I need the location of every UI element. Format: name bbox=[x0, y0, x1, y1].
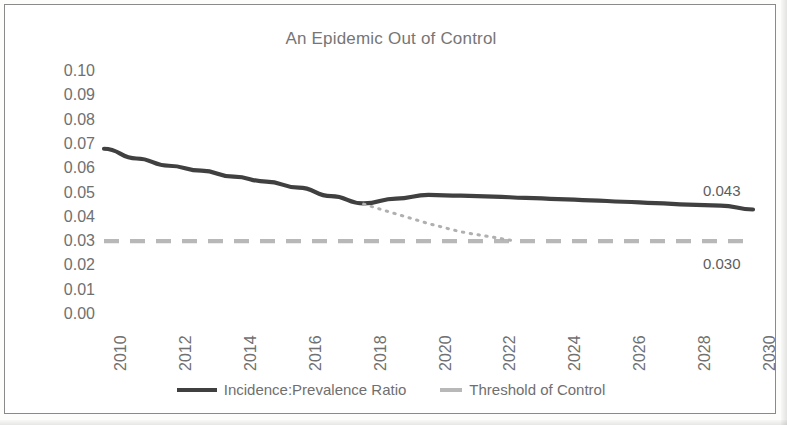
x-axis-tick-2028: 2028 bbox=[696, 335, 714, 371]
legend-label-threshold-of-control: Threshold of Control bbox=[469, 382, 605, 397]
page-edge-bottom bbox=[0, 420, 787, 425]
x-axis-tick-2026: 2026 bbox=[631, 335, 649, 371]
legend-item-threshold-of-control[interactable]: Threshold of Control bbox=[440, 382, 605, 397]
y-axis-tick-0-10: 0.10 bbox=[35, 62, 95, 80]
series-line-incidence-prevalence-ratio bbox=[104, 149, 753, 210]
chart-screenshot: An Epidemic Out of Control 0.100.090.080… bbox=[0, 0, 787, 425]
dashed-line-swatch-icon bbox=[440, 388, 462, 392]
y-axis-tick-0-00: 0.00 bbox=[35, 305, 95, 323]
x-axis-tick-2014: 2014 bbox=[242, 335, 260, 371]
y-axis-tick-0-09: 0.09 bbox=[35, 86, 95, 104]
y-axis-tick-0-03: 0.03 bbox=[35, 232, 95, 250]
x-axis-tick-2020: 2020 bbox=[437, 335, 455, 371]
x-axis-tick-2022: 2022 bbox=[501, 335, 519, 371]
page-edge-right bbox=[781, 0, 787, 425]
x-axis-tick-2024: 2024 bbox=[566, 335, 584, 371]
x-axis-tick-2016: 2016 bbox=[307, 335, 325, 371]
y-axis-tick-0-08: 0.08 bbox=[35, 111, 95, 129]
y-axis-tick-0-07: 0.07 bbox=[35, 135, 95, 153]
plot-area: 0.100.090.080.070.060.050.040.030.020.01… bbox=[5, 5, 777, 415]
data-label-0-030: 0.030 bbox=[703, 255, 741, 272]
y-axis-tick-0-05: 0.05 bbox=[35, 184, 95, 202]
data-label-0-043: 0.043 bbox=[703, 182, 741, 199]
chart-frame: An Epidemic Out of Control 0.100.090.080… bbox=[4, 4, 776, 414]
x-axis-tick-2018: 2018 bbox=[372, 335, 390, 371]
x-axis-tick-2030: 2030 bbox=[761, 335, 779, 371]
x-axis-tick-2012: 2012 bbox=[177, 335, 195, 371]
y-axis-tick-0-01: 0.01 bbox=[35, 281, 95, 299]
x-axis-tick-2010: 2010 bbox=[112, 335, 130, 371]
series-line-projected-path-to-control bbox=[364, 204, 517, 241]
solid-line-swatch-icon bbox=[177, 388, 217, 392]
legend-item-incidence-prevalence-ratio[interactable]: Incidence:Prevalence Ratio bbox=[177, 382, 407, 397]
y-axis-tick-0-02: 0.02 bbox=[35, 256, 95, 274]
chart-legend: Incidence:Prevalence Ratio Threshold of … bbox=[5, 382, 777, 397]
legend-label-incidence-prevalence-ratio: Incidence:Prevalence Ratio bbox=[224, 382, 407, 397]
y-axis-tick-0-04: 0.04 bbox=[35, 208, 95, 226]
y-axis-tick-0-06: 0.06 bbox=[35, 159, 95, 177]
